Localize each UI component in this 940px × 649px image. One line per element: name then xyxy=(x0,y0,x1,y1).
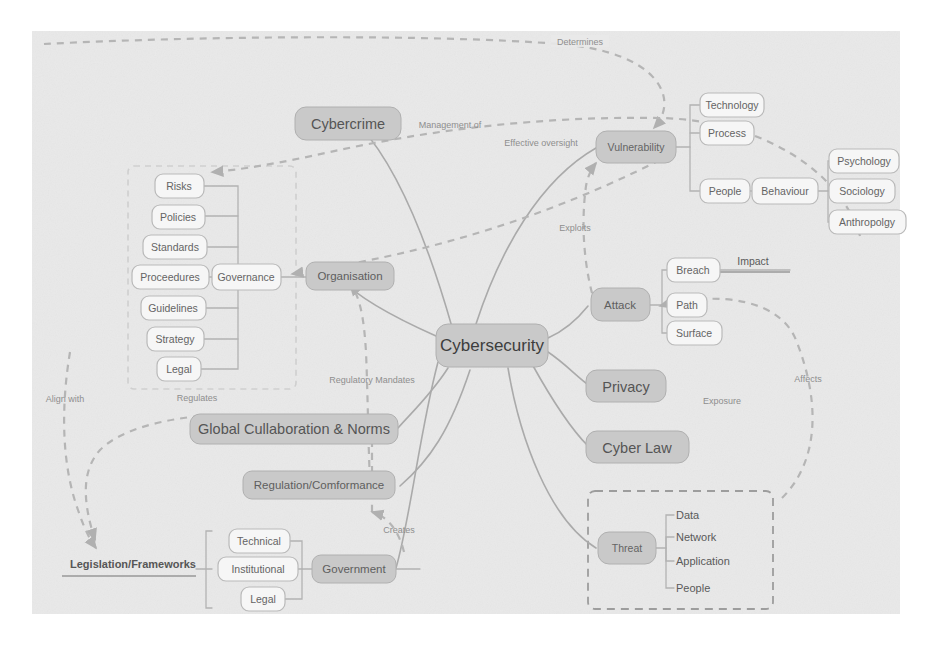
node-behaviour-item-anthropolgy[interactable]: Anthropolgy xyxy=(829,210,906,234)
node-anthropolgy-label: Anthropolgy xyxy=(839,216,896,228)
node-governance-item-guidelines[interactable]: Guidelines xyxy=(141,296,206,320)
node-standards-label: Standards xyxy=(151,241,199,253)
edge-label-effective-oversight: Effective oversight xyxy=(504,138,578,148)
edge-label-exploits: Exploits xyxy=(559,223,591,233)
node-vulnerability-item-people[interactable]: People xyxy=(700,179,750,203)
node-threat[interactable]: Threat xyxy=(598,532,656,564)
edge-label-affects: Affects xyxy=(794,374,822,384)
node-legal-label: Legal xyxy=(166,363,192,375)
node-proceedures-label: Proceedures xyxy=(140,271,200,283)
node-behaviour-item-sociology[interactable]: Sociology xyxy=(829,179,895,203)
node-governance-label: Governance xyxy=(217,271,274,283)
edge-label-determines: Determines xyxy=(557,37,604,47)
node-threat-label: Threat xyxy=(612,542,642,554)
threat-item-data: Data xyxy=(676,509,700,521)
node-cybercrime[interactable]: Cybercrime xyxy=(295,107,401,140)
node-governance-item-risks[interactable]: Risks xyxy=(155,174,204,198)
edge-label-management-of: Management of xyxy=(419,120,482,130)
node-institutional-label: Institutional xyxy=(231,563,284,575)
node-behaviour[interactable]: Behaviour xyxy=(752,178,818,204)
node-surface-label: Surface xyxy=(676,327,712,339)
node-technical-label: Technical xyxy=(237,535,281,547)
node-privacy-label: Privacy xyxy=(602,379,650,395)
node-breach-label: Breach xyxy=(676,264,709,276)
node-cybercrime-label: Cybercrime xyxy=(311,116,385,132)
node-regulation-label: Regulation/Comformance xyxy=(254,479,384,491)
node-vulnerability-label: Vulnerability xyxy=(608,141,666,153)
node-process-label: Process xyxy=(708,127,746,139)
node-strategy-label: Strategy xyxy=(155,333,195,345)
node-attack-item-breach[interactable]: Breach xyxy=(667,258,720,282)
node-cybersecurity[interactable]: Cybersecurity xyxy=(436,324,548,367)
node-attack-item-path[interactable]: Path xyxy=(667,293,707,317)
node-attack[interactable]: Attack xyxy=(591,288,650,321)
edge-label-regulates: Regulates xyxy=(177,393,218,403)
node-technology-label: Technology xyxy=(705,99,759,111)
threat-item-application: Application xyxy=(676,555,730,567)
edge-label-creates: Creates xyxy=(383,525,415,535)
node-government-item-institutional[interactable]: Institutional xyxy=(218,557,298,581)
node-legislation-label: Legislation/Frameworks xyxy=(70,558,196,570)
node-path-label: Path xyxy=(676,299,698,311)
node-sociology-label: Sociology xyxy=(839,185,885,197)
node-impact-label: Impact xyxy=(737,255,769,267)
node-government-item-legal[interactable]: Legal xyxy=(241,587,285,611)
mindmap-canvas: Cybersecurity Cybercrime Organisation Go… xyxy=(0,0,940,649)
edge-label-align-with: Align with xyxy=(46,394,85,404)
node-cyber-law-label: Cyber Law xyxy=(602,440,672,456)
node-privacy[interactable]: Privacy xyxy=(586,370,666,402)
node-policies-label: Policies xyxy=(160,211,196,223)
canvas-texture xyxy=(32,31,900,614)
node-organisation-label: Organisation xyxy=(317,270,382,282)
node-regulation-conformance[interactable]: Regulation/Comformance xyxy=(243,471,395,499)
node-governance-item-strategy[interactable]: Strategy xyxy=(147,327,204,351)
node-psychology-label: Psychology xyxy=(837,155,891,167)
node-global-collaboration[interactable]: Global Cullaboration & Norms xyxy=(190,414,398,444)
node-guidelines-label: Guidelines xyxy=(148,302,198,314)
node-attack-item-surface[interactable]: Surface xyxy=(667,321,722,345)
node-governance-item-legal[interactable]: Legal xyxy=(157,357,201,381)
threat-item-people: People xyxy=(676,582,710,594)
node-government-label: Government xyxy=(322,563,386,575)
threat-item-network: Network xyxy=(676,531,717,543)
edge-label-regulatory-mandates: Regulatory Mandates xyxy=(329,375,415,385)
node-cyber-law[interactable]: Cyber Law xyxy=(586,431,689,463)
node-people-vuln-label: People xyxy=(709,185,742,197)
behaviour-items-group: Psychology Sociology Anthropolgy xyxy=(829,149,906,234)
node-vulnerability-item-technology[interactable]: Technology xyxy=(700,93,764,117)
edge-label-exposure: Exposure xyxy=(703,396,741,406)
node-organisation[interactable]: Organisation xyxy=(306,262,394,290)
node-legal-gov-label: Legal xyxy=(250,593,276,605)
node-governance-item-proceedures[interactable]: Proceedures xyxy=(132,265,209,289)
node-risks-label: Risks xyxy=(166,180,192,192)
node-attack-label: Attack xyxy=(604,299,636,311)
node-vulnerability[interactable]: Vulnerability xyxy=(596,131,676,163)
node-governance-item-standards[interactable]: Standards xyxy=(143,235,207,259)
node-government-item-technical[interactable]: Technical xyxy=(229,529,290,553)
node-cybersecurity-label: Cybersecurity xyxy=(440,336,544,355)
node-global-collaboration-label: Global Cullaboration & Norms xyxy=(198,421,390,437)
node-behaviour-item-psychology[interactable]: Psychology xyxy=(829,149,899,173)
node-governance-item-policies[interactable]: Policies xyxy=(152,205,205,229)
node-behaviour-label: Behaviour xyxy=(761,185,809,197)
mindmap-svg: Cybersecurity Cybercrime Organisation Go… xyxy=(0,0,940,649)
node-government[interactable]: Government xyxy=(312,555,396,583)
node-vulnerability-item-process[interactable]: Process xyxy=(700,121,754,145)
node-governance[interactable]: Governance xyxy=(212,264,281,290)
